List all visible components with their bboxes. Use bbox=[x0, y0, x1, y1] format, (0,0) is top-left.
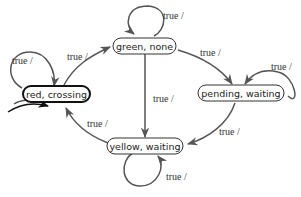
edge-label-red-self: true / bbox=[12, 55, 33, 66]
edge-label-yellow-red: true / bbox=[87, 118, 108, 129]
edge-label-pending-self: true / bbox=[271, 61, 292, 72]
edge-label-green-yellow: true / bbox=[153, 93, 174, 104]
node-label: red, crossing bbox=[26, 89, 87, 100]
node-label: green, none bbox=[116, 41, 173, 52]
edge-pending-yellow bbox=[188, 103, 235, 144]
edge-yellow-self bbox=[124, 152, 161, 186]
edge-label-red-green: true / bbox=[67, 51, 88, 62]
edge-label-green-self: true / bbox=[163, 10, 184, 21]
node-label: yellow, waiting bbox=[109, 141, 180, 152]
edge-label-pending-yellow: true / bbox=[219, 126, 240, 137]
node-red-crossing: red, crossing bbox=[23, 86, 90, 102]
edge-label-yellow-self: true / bbox=[166, 171, 187, 182]
state-diagram: true / true / true / true / true / true … bbox=[0, 0, 301, 197]
node-green-none: green, none bbox=[113, 38, 176, 54]
node-label: pending, waiting bbox=[201, 88, 280, 99]
initial-arrow bbox=[8, 104, 48, 112]
node-pending-waiting: pending, waiting bbox=[198, 85, 284, 101]
edge-green-self bbox=[128, 6, 164, 36]
node-yellow-waiting: yellow, waiting bbox=[107, 138, 183, 154]
edge-label-green-pending: true / bbox=[200, 47, 221, 58]
